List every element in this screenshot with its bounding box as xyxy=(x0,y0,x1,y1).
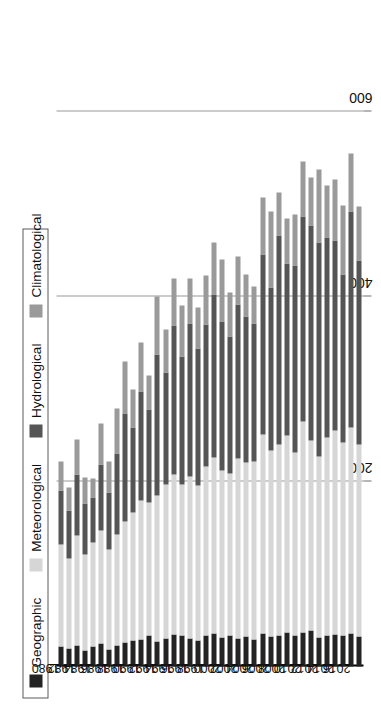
bar-segment xyxy=(58,461,63,490)
bar-segment xyxy=(284,436,289,632)
bar-segment xyxy=(74,536,79,645)
bar-segment xyxy=(171,474,176,633)
bar-row xyxy=(268,211,273,666)
bar-segment xyxy=(260,197,265,254)
bar-segment xyxy=(211,294,216,457)
bar-row xyxy=(163,329,168,666)
bar-segment xyxy=(308,440,313,630)
bar-row xyxy=(348,153,353,666)
legend-item-climatological: Climatological xyxy=(28,213,43,317)
bar-segment xyxy=(300,216,305,421)
bar-segment xyxy=(130,389,135,427)
bar-segment xyxy=(268,450,273,636)
chart-figure: Geographic Meteorological Hydrological C… xyxy=(0,0,381,724)
bar-row xyxy=(284,218,289,666)
bar-segment xyxy=(179,484,184,635)
bar-row xyxy=(74,439,79,666)
bar-row xyxy=(324,185,329,666)
bar-segment xyxy=(58,544,63,646)
bar-segment xyxy=(356,636,361,666)
bar-row xyxy=(98,424,103,667)
bar-segment xyxy=(154,296,159,354)
chart-legend: Geographic Meteorological Hydrological C… xyxy=(22,228,48,698)
bar-segment xyxy=(340,274,345,442)
bar-segment xyxy=(163,372,168,484)
bar-segment xyxy=(243,316,248,462)
bar-segment xyxy=(122,361,127,413)
bar-segment xyxy=(219,470,224,638)
bar-segment xyxy=(163,329,168,372)
bar-segment xyxy=(203,466,208,634)
bar-row xyxy=(58,461,63,666)
bar-row xyxy=(243,274,248,666)
bar-row xyxy=(276,192,281,666)
bar-segment xyxy=(340,205,345,274)
bar-segment xyxy=(187,476,192,638)
bar-segment xyxy=(235,304,240,458)
bar-segment xyxy=(260,254,265,434)
bar-segment xyxy=(292,265,297,452)
bar-row xyxy=(356,206,361,666)
bar-segment xyxy=(66,558,71,649)
bar-segment xyxy=(260,434,265,633)
bar-row xyxy=(106,461,111,666)
bar-segment xyxy=(316,456,321,637)
bar-segment xyxy=(308,225,313,440)
bar-segment xyxy=(195,348,200,485)
bar-segment xyxy=(114,534,119,645)
bar-segment xyxy=(227,473,232,636)
bar-segment xyxy=(211,457,216,633)
bar-segment xyxy=(276,192,281,235)
bar-segment xyxy=(292,214,297,265)
bar-row xyxy=(308,177,313,666)
bar-segment xyxy=(187,323,192,477)
bar-segment xyxy=(300,161,305,217)
bar-segment xyxy=(340,442,345,635)
bar-segment xyxy=(98,424,103,465)
bar-segment xyxy=(130,512,135,640)
bar-segment xyxy=(356,444,361,637)
bar-segment xyxy=(276,444,281,635)
plot-area: 200400600 198019821984198619881990199219… xyxy=(56,18,363,666)
bar-segment xyxy=(171,278,176,325)
bar-segment xyxy=(195,307,200,348)
bar-row xyxy=(316,169,321,666)
bar-segment xyxy=(316,169,321,242)
bar-segment xyxy=(154,495,159,641)
bar-segment xyxy=(130,427,135,512)
bar-row xyxy=(292,214,297,666)
legend-label-climatological: Climatological xyxy=(28,213,43,297)
bar-segment xyxy=(268,287,273,450)
bar-row xyxy=(211,242,216,666)
bar-segment xyxy=(114,408,119,453)
bar-row xyxy=(203,275,208,666)
bar-segment xyxy=(187,278,192,322)
bar-segment xyxy=(106,549,111,649)
bar-row xyxy=(260,197,265,666)
bar-row xyxy=(122,361,127,666)
bar-segment xyxy=(284,263,289,435)
bar-segment xyxy=(122,413,127,520)
bar-segment xyxy=(203,275,208,323)
bar-segment xyxy=(90,542,95,646)
bar-segment xyxy=(179,305,184,356)
bar-segment xyxy=(324,185,329,238)
bar-segment xyxy=(122,521,127,642)
bar-row xyxy=(332,179,337,666)
bar-segment xyxy=(82,477,87,503)
bar-segment xyxy=(276,235,281,444)
bar-segment xyxy=(211,242,216,294)
bar-segment xyxy=(235,458,240,639)
bar-segment xyxy=(98,530,103,643)
bar-segment xyxy=(82,503,87,554)
bar-row xyxy=(114,408,119,666)
bar-row xyxy=(340,205,345,666)
bar-row xyxy=(171,278,176,666)
bar-row xyxy=(154,296,159,666)
bar-segment xyxy=(227,292,232,336)
bar-segment xyxy=(58,490,63,544)
bar-row xyxy=(195,307,200,666)
axis-tick xyxy=(363,295,371,296)
legend-swatch-hydrological xyxy=(29,424,42,437)
bar-segment xyxy=(332,240,337,430)
